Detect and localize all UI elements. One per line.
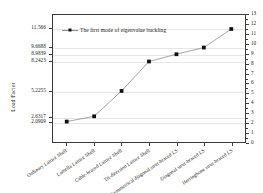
category-axis-tick [204,143,205,146]
right-axis-minor-tick [246,29,248,30]
right-axis-tick [246,83,249,84]
right-axis-tick-label: 11 [251,31,256,36]
left-axis-tick-label: 8.9839 [31,51,46,56]
right-axis-minor-tick [246,138,248,139]
right-value-axis: 012345678910111213 [246,14,263,143]
category-axis-tick [149,143,150,146]
right-axis-tick-label: 12 [251,21,256,26]
category-axis-tick [66,143,67,146]
right-axis-minor-tick [246,128,248,129]
right-axis-minor-tick [246,49,248,50]
plot-area [52,14,246,143]
y-axis-title: Load Factor [10,82,16,111]
legend-entry-label: The first mode of eigenvalue buckling [80,27,166,33]
left-axis-tick-label: 11.566 [31,26,46,31]
right-axis-tick [246,113,249,114]
data-point-marker[interactable] [65,120,69,124]
right-axis-tick [246,44,249,45]
right-axis-minor-tick [246,98,248,99]
right-axis-tick-label: 13 [251,11,256,16]
right-axis-tick [246,123,249,124]
right-axis-tick-label: 7 [251,71,254,76]
left-value-axis: 11.5669.66888.98398.24235.22552.63172.09… [0,14,52,143]
category-axis-tick [94,143,95,146]
right-axis-tick [246,24,249,25]
right-axis-tick [246,64,249,65]
right-axis-minor-tick [246,118,248,119]
category-axis-tick [232,143,233,146]
data-point-marker[interactable] [175,52,179,56]
data-point-marker[interactable] [147,60,151,64]
category-axis-tick [177,143,178,146]
data-point-marker[interactable] [92,114,96,118]
series-layer [53,15,245,142]
right-axis-minor-tick [246,79,248,80]
right-axis-minor-tick [246,39,248,40]
right-axis-tick [246,103,249,104]
right-axis-tick-label: 10 [251,41,256,46]
right-axis-tick-label: 1 [251,130,254,135]
eigenvalue-buckling-chart: 11.5669.66888.98398.24235.22552.63172.09… [0,0,263,193]
left-axis-tick-label: 5.2255 [31,89,46,94]
right-axis-tick-label: 5 [251,91,254,96]
right-axis-minor-tick [246,108,248,109]
series-line [67,29,232,122]
right-axis-tick [246,14,249,15]
left-axis-tick-label: 8.2423 [31,59,46,64]
chart-legend: The first mode of eigenvalue buckling [62,27,166,33]
right-axis-minor-tick [246,69,248,70]
right-axis-tick [246,74,249,75]
right-axis-tick-label: 2 [251,121,254,126]
legend-line-marker-icon [62,27,78,33]
right-axis-tick-label: 9 [251,51,254,56]
left-axis-tick-label: 9.6688 [31,44,46,49]
right-axis-tick-label: 0 [251,140,254,145]
data-point-marker[interactable] [229,27,233,31]
left-axis-tick-label: 2.0909 [31,120,46,125]
right-axis-tick [246,143,249,144]
right-axis-tick-label: 3 [251,111,254,116]
right-axis-minor-tick [246,59,248,60]
category-axis-label: Herringbone strut-braced LS [181,148,234,186]
category-axis-tick [121,143,122,146]
right-axis-tick-label: 4 [251,101,254,106]
right-axis-tick [246,93,249,94]
right-axis-tick [246,34,249,35]
right-axis-tick-label: 8 [251,61,254,66]
right-axis-minor-tick [246,88,248,89]
right-axis-minor-tick [246,19,248,20]
right-axis-tick-label: 6 [251,81,254,86]
right-axis-tick [246,54,249,55]
data-point-marker[interactable] [202,46,206,50]
right-axis-tick [246,133,249,134]
data-point-marker[interactable] [120,89,124,93]
